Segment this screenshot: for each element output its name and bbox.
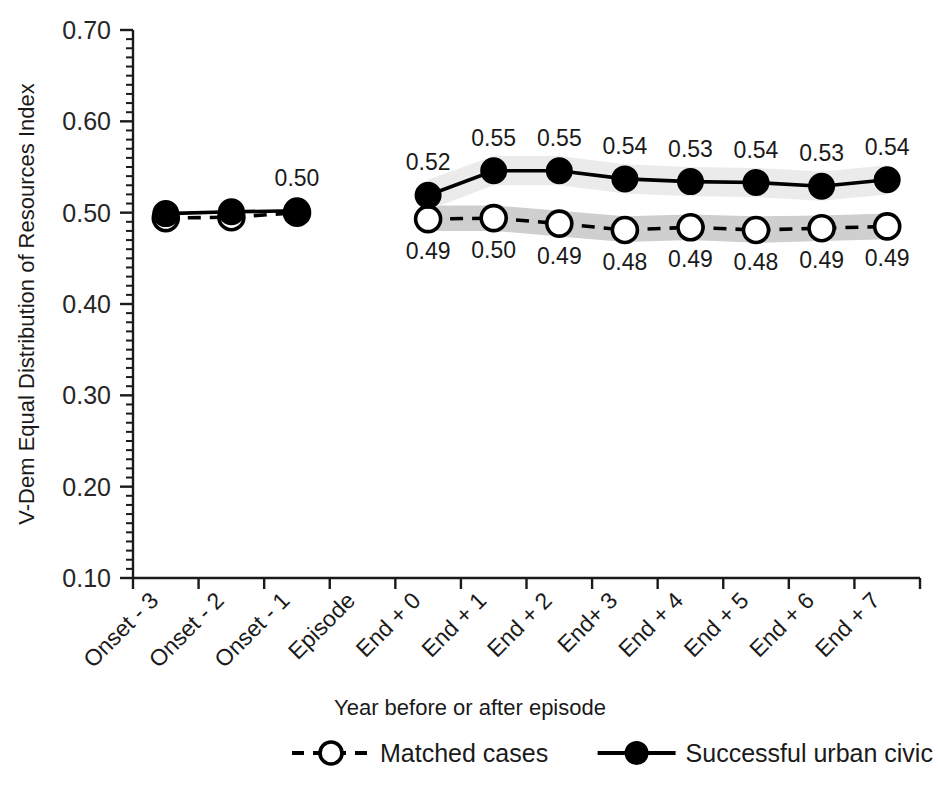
y-axis-tick-label: 0.10 [62, 564, 111, 592]
data-point-marker[interactable] [219, 199, 244, 224]
data-point-marker[interactable] [612, 166, 637, 191]
data-point-marker[interactable] [809, 174, 834, 199]
chart-figure: 0.700.600.500.400.300.200.10Onset - 3Ons… [0, 0, 938, 789]
legend-open-circle-icon [320, 742, 342, 764]
data-point-marker[interactable] [481, 158, 506, 183]
data-point-label: 0.48 [603, 249, 648, 275]
x-axis-category-label: Episode [283, 587, 360, 664]
data-point-label: 0.52 [406, 149, 451, 175]
data-point-marker[interactable] [547, 211, 572, 236]
data-point-marker[interactable] [744, 218, 769, 243]
data-point-marker[interactable] [416, 207, 441, 232]
data-point-label: 0.49 [668, 246, 713, 272]
data-point-marker[interactable] [875, 214, 900, 239]
data-point-marker[interactable] [547, 158, 572, 183]
x-axis-category-label: End+ 3 [552, 587, 622, 657]
data-point-label: 0.54 [865, 134, 910, 160]
y-axis-tick-label: 0.70 [62, 16, 111, 44]
data-point-label: 0.49 [865, 245, 910, 271]
y-axis-tick-label: 0.40 [62, 290, 111, 318]
data-point-label: 0.50 [275, 165, 320, 191]
data-point-label: 0.53 [668, 136, 713, 162]
data-point-marker[interactable] [481, 206, 506, 231]
x-axis-category-label: End + 2 [482, 587, 557, 662]
data-point-marker[interactable] [153, 201, 178, 226]
legend-filled-circle-icon [626, 742, 648, 764]
data-point-marker[interactable] [678, 215, 703, 240]
legend-label: Matched cases [380, 739, 548, 767]
y-axis-tick-label: 0.30 [62, 381, 111, 409]
y-axis-title: V-Dem Equal Distribution of Resources In… [14, 83, 39, 524]
data-point-label: 0.53 [799, 140, 844, 166]
data-point-label: 0.54 [603, 133, 648, 159]
data-point-label: 0.49 [406, 238, 451, 264]
x-axis-category-label: End + 1 [416, 587, 491, 662]
data-point-marker[interactable] [809, 216, 834, 241]
y-axis-tick-label: 0.20 [62, 473, 111, 501]
legend-item-2[interactable]: Successful urban civic [598, 739, 933, 767]
legend-item-1[interactable]: Matched cases [292, 739, 548, 767]
x-axis-category-label: End + 6 [744, 587, 819, 662]
line-chart-canvas: 0.700.600.500.400.300.200.10Onset - 3Ons… [0, 0, 938, 789]
data-point-label: 0.48 [734, 249, 779, 275]
x-axis-category-label: End + 5 [679, 587, 754, 662]
data-point-label: 0.49 [537, 243, 582, 269]
data-point-marker[interactable] [678, 169, 703, 194]
x-axis-category-label: End + 0 [351, 587, 426, 662]
legend-label: Successful urban civic [686, 739, 933, 767]
data-point-marker[interactable] [612, 218, 637, 243]
data-point-marker[interactable] [285, 198, 310, 223]
x-axis-title: Year before or after episode [334, 695, 606, 720]
y-axis-tick-label: 0.60 [62, 107, 111, 135]
data-point-marker[interactable] [744, 170, 769, 195]
data-point-label: 0.54 [734, 137, 779, 163]
data-point-marker[interactable] [416, 183, 441, 208]
data-point-label: 0.50 [471, 237, 516, 263]
x-axis-category-label: End + 4 [613, 587, 688, 662]
x-axis-category-label: End + 7 [810, 587, 885, 662]
data-point-label: 0.55 [537, 125, 582, 151]
data-point-marker[interactable] [875, 167, 900, 192]
data-point-label: 0.55 [471, 125, 516, 151]
data-point-label: 0.49 [799, 247, 844, 273]
y-axis-tick-label: 0.50 [62, 199, 111, 227]
